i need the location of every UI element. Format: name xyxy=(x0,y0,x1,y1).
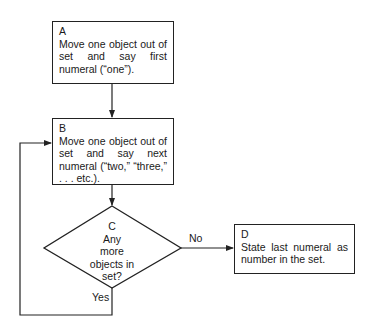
process-box-b: B Move one object out of set and say nex… xyxy=(52,118,174,185)
decision-line: objects in xyxy=(72,258,152,271)
node-text-a: Move one object out of set and say first… xyxy=(59,38,167,75)
node-text-d: State last numeral as number in the set. xyxy=(241,241,348,266)
process-box-a: A Move one object out of set and say fir… xyxy=(52,21,174,84)
decision-line: more xyxy=(72,245,152,258)
process-box-d: D State last numeral as number in the se… xyxy=(234,224,355,274)
node-id-d: D xyxy=(241,228,348,241)
edge-label-no: No xyxy=(189,232,202,244)
node-id-b: B xyxy=(59,122,167,135)
decision-text-c: C Any more objects in set? xyxy=(72,220,152,283)
node-text-b: Move one object out of set and say next … xyxy=(59,135,167,185)
edge-label-yes: Yes xyxy=(92,291,109,303)
node-id-a: A xyxy=(59,25,167,38)
decision-line: Any xyxy=(72,233,152,246)
decision-line: set? xyxy=(72,270,152,283)
node-id-c: C xyxy=(72,220,152,233)
